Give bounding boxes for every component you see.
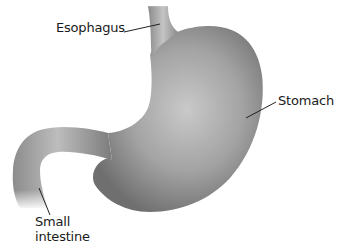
label-small-intestine-line2: intestine xyxy=(35,229,90,245)
label-stomach: Stomach xyxy=(278,93,334,109)
label-esophagus: Esophagus xyxy=(56,20,125,36)
esophagus-fade xyxy=(140,0,180,22)
intestine-fade xyxy=(10,190,55,210)
label-small-intestine-line1: Small xyxy=(35,214,70,230)
stomach-shape xyxy=(93,26,263,212)
